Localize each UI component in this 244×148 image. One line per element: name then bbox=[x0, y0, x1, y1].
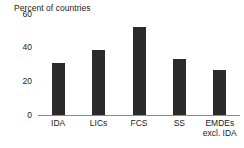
x-axis-label: SS bbox=[159, 118, 199, 128]
bar bbox=[213, 70, 226, 115]
x-axis-label: LICs bbox=[78, 118, 118, 128]
y-tick-label-60: 60 bbox=[23, 10, 32, 19]
bar-chart: Percent of countries 60 40 20 0 IDALICsF… bbox=[0, 0, 244, 148]
bar bbox=[92, 50, 105, 115]
bar bbox=[52, 63, 65, 115]
y-tick-label-40: 40 bbox=[23, 43, 32, 52]
y-tick-label-0: 0 bbox=[27, 111, 32, 120]
y-tick-label-20: 20 bbox=[23, 77, 32, 86]
x-axis-label: FCS bbox=[119, 118, 159, 128]
bar bbox=[133, 27, 146, 115]
bar bbox=[173, 59, 186, 115]
x-axis-label: EMDEs excl. IDA bbox=[200, 118, 240, 138]
bars-container bbox=[38, 14, 240, 115]
x-axis-line bbox=[38, 115, 240, 116]
x-axis-labels: IDALICsFCSSSEMDEs excl. IDA bbox=[38, 118, 240, 146]
y-axis-ticks: 60 40 20 0 bbox=[0, 0, 34, 148]
x-axis-label: IDA bbox=[38, 118, 78, 128]
